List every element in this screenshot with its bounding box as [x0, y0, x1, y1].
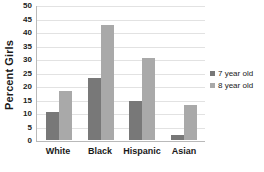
bar: [59, 91, 72, 140]
bar: [88, 78, 101, 140]
y-axis-tick-label: 30: [23, 56, 32, 64]
bar: [171, 135, 184, 140]
plot-area: [36, 6, 205, 142]
y-axis-tick-label: 50: [23, 2, 32, 10]
legend-swatch-icon: [210, 83, 215, 88]
y-axis-tick-labels: 05101520253035404550: [18, 0, 34, 142]
y-axis-tick-label: 25: [23, 70, 32, 78]
bar: [142, 58, 155, 140]
bar-group: [122, 6, 164, 140]
bars-layer: [38, 6, 205, 140]
y-axis-title-label: Percent Girls: [3, 40, 15, 110]
bar-chart: Percent Girls 05101520253035404550 White…: [0, 0, 264, 172]
y-axis-tick-label: 20: [23, 83, 32, 91]
bar: [129, 101, 142, 140]
x-axis-tick-labels: WhiteBlackHispanicAsian: [37, 146, 205, 156]
x-axis-tick-label: Black: [79, 146, 121, 156]
y-axis-tick-label: 35: [23, 43, 32, 51]
x-axis-tick-label: White: [37, 146, 79, 156]
y-axis-tick-label: 40: [23, 29, 32, 37]
y-axis-tick-label: 5: [28, 124, 32, 132]
bar-group: [163, 6, 205, 140]
x-axis-tick-label: Hispanic: [121, 146, 163, 156]
y-axis-tick-label: 15: [23, 97, 32, 105]
x-axis-tick-label: Asian: [163, 146, 205, 156]
y-axis-tick-label: 10: [23, 110, 32, 118]
bar-group: [80, 6, 122, 140]
bar: [184, 105, 197, 140]
y-axis-tick-label: 0: [28, 137, 32, 145]
legend-swatch-icon: [210, 71, 215, 76]
legend: 7 year old8 year old: [210, 69, 264, 93]
bar: [101, 25, 114, 140]
legend-label: 7 year old: [218, 69, 253, 78]
legend-item[interactable]: 8 year old: [210, 81, 264, 90]
bar-group: [38, 6, 80, 140]
legend-item[interactable]: 7 year old: [210, 69, 264, 78]
y-axis-tick-label: 45: [23, 16, 32, 24]
legend-label: 8 year old: [218, 81, 253, 90]
y-axis-title: Percent Girls: [0, 0, 18, 150]
bar: [46, 112, 59, 140]
